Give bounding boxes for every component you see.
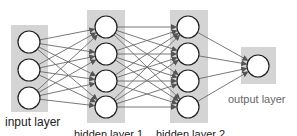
input-neuron-2: [18, 59, 40, 81]
input-neuron-1: [18, 31, 40, 53]
connection-edge: [40, 99, 94, 105]
output-layer-label: output layer: [228, 93, 285, 105]
hidden2-neuron-1: [177, 16, 199, 38]
connection-edge: [40, 72, 94, 80]
connections: [37, 27, 248, 107]
hidden1-neuron-4: [95, 96, 117, 118]
hidden2-neuron-4: [177, 96, 199, 118]
input-layer-label: input layer: [5, 115, 60, 129]
output-neuron-1: [247, 55, 269, 77]
hidden-layer-1-label: hidden layer 1: [74, 128, 143, 136]
hidden1-neuron-2: [95, 43, 117, 65]
input-neuron-3: [18, 87, 40, 109]
hidden1-neuron-3: [95, 70, 117, 92]
hidden2-neuron-3: [177, 70, 199, 92]
hidden2-neuron-2: [177, 43, 199, 65]
hidden-layer-2-label: hidden layer 2: [156, 128, 225, 136]
hidden1-neuron-1: [95, 16, 117, 38]
